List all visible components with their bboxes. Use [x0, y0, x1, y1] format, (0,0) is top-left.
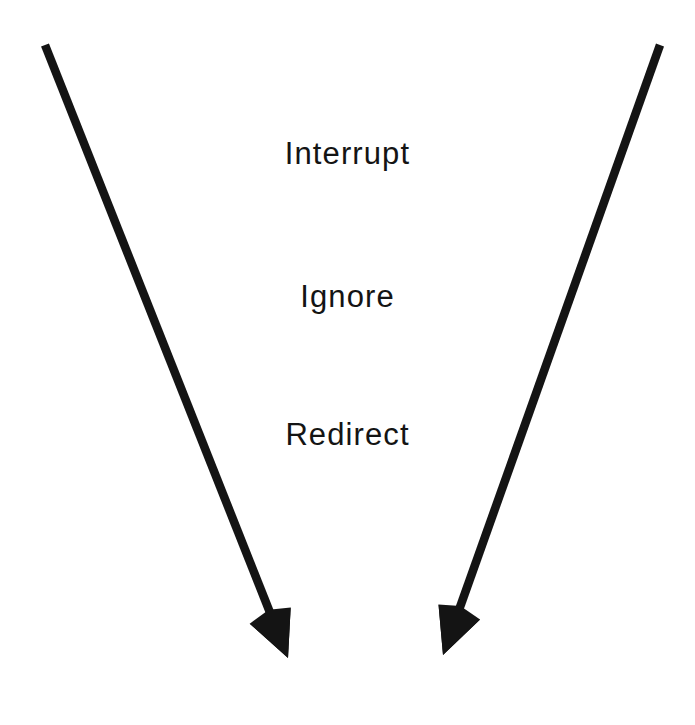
label-interrupt: Interrupt [0, 138, 695, 169]
diagram-canvas: Interrupt Ignore Redirect [0, 0, 695, 725]
label-ignore: Ignore [0, 281, 695, 312]
label-redirect: Redirect [0, 419, 695, 450]
label-layer: Interrupt Ignore Redirect [0, 0, 695, 725]
